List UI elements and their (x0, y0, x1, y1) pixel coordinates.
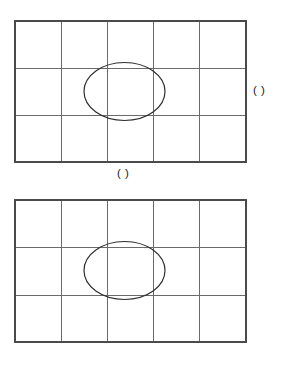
figure-1-right-label: ( ) (253, 84, 265, 96)
figure-2: 15 (3) (5) (0, 185, 286, 375)
figure-2-grid-diagram (0, 185, 286, 375)
grid-outer-border (15, 200, 246, 342)
figure-1-grid-diagram (0, 0, 286, 190)
figure-1-bottom-label: ( ) (117, 167, 129, 179)
figure-1: ( ) ( ) (0, 0, 286, 190)
grid-outer-border (15, 21, 246, 162)
